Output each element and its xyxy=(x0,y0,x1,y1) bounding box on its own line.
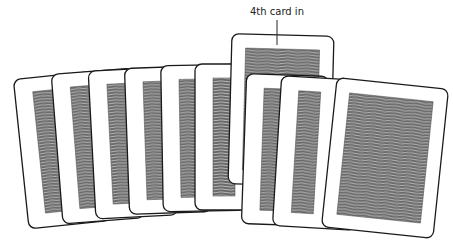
card-fan-diagram: 4th card in xyxy=(0,0,453,243)
card-back-pattern xyxy=(337,93,433,223)
callout-label: 4th card in xyxy=(250,6,304,17)
cards-canvas: 4th card in xyxy=(0,0,453,243)
card-10 xyxy=(321,78,448,239)
